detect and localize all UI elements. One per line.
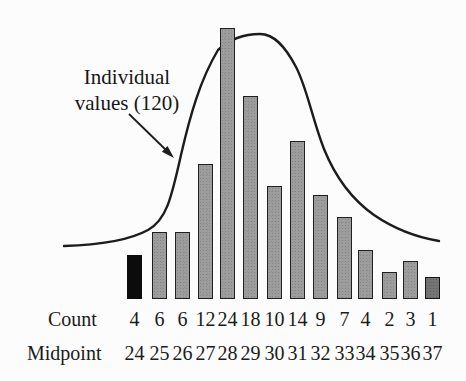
count-value: 14 — [288, 308, 308, 331]
histogram-bar-midpoint-28 — [220, 28, 235, 299]
midpoint-value: 27 — [196, 342, 216, 365]
annotation-individual-values: Individual values (120) — [58, 64, 196, 116]
histogram-bar-midpoint-29 — [243, 96, 258, 299]
histogram-bar-midpoint-25 — [152, 232, 167, 299]
histogram-figure: Individual values (120) Count Midpoint 4… — [0, 0, 466, 381]
histogram-bar-midpoint-34 — [358, 250, 373, 299]
count-value: 7 — [340, 308, 350, 331]
count-value: 1 — [428, 308, 438, 331]
histogram-bar-midpoint-35 — [382, 272, 397, 299]
midpoint-value: 29 — [241, 342, 261, 365]
histogram-bar-midpoint-33 — [337, 217, 352, 299]
midpoint-value: 32 — [311, 342, 331, 365]
midpoint-row-label: Midpoint — [27, 342, 101, 365]
histogram-bar-midpoint-31 — [290, 141, 305, 299]
count-value: 2 — [385, 308, 395, 331]
histogram-bar-midpoint-27 — [198, 164, 213, 299]
histogram-bar-midpoint-36 — [403, 261, 418, 299]
midpoint-value: 36 — [401, 342, 421, 365]
count-value: 4 — [130, 308, 140, 331]
count-value: 24 — [218, 308, 238, 331]
count-value: 12 — [196, 308, 216, 331]
count-value: 9 — [316, 308, 326, 331]
midpoint-value: 28 — [218, 342, 238, 365]
midpoint-value: 37 — [423, 342, 443, 365]
annotation-arrow — [129, 114, 174, 158]
midpoint-value: 35 — [380, 342, 400, 365]
histogram-bar-midpoint-24 — [127, 255, 142, 299]
count-value: 4 — [361, 308, 371, 331]
annotation-line-2: values (120) — [58, 90, 196, 116]
midpoint-value: 34 — [356, 342, 376, 365]
midpoint-value: 30 — [265, 342, 285, 365]
count-value: 3 — [406, 308, 416, 331]
midpoint-value: 24 — [125, 342, 145, 365]
histogram-bar-midpoint-32 — [313, 195, 328, 299]
count-row-label: Count — [48, 308, 97, 331]
midpoint-value: 25 — [150, 342, 170, 365]
histogram-bar-midpoint-30 — [267, 186, 282, 299]
annotation-line-1: Individual — [58, 64, 196, 90]
midpoint-value: 26 — [173, 342, 193, 365]
midpoint-value: 33 — [335, 342, 355, 365]
histogram-bar-midpoint-26 — [175, 232, 190, 299]
count-value: 6 — [178, 308, 188, 331]
count-value: 18 — [241, 308, 261, 331]
histogram-bar-midpoint-37 — [425, 277, 440, 299]
count-value: 6 — [155, 308, 165, 331]
midpoint-value: 31 — [288, 342, 308, 365]
count-value: 10 — [265, 308, 285, 331]
